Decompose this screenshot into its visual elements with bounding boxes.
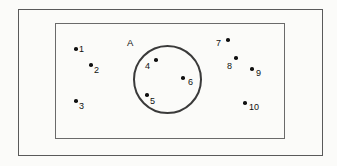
point-label-5: 5 xyxy=(150,97,155,106)
point-dot-3 xyxy=(74,99,78,103)
point-dot-7 xyxy=(226,38,230,42)
point-label-9: 9 xyxy=(256,69,261,78)
set-A-label: A xyxy=(127,38,133,48)
point-dot-10 xyxy=(243,101,247,105)
point-label-10: 10 xyxy=(249,103,259,112)
diagram-canvas: A 12345678910 xyxy=(0,0,337,166)
point-label-2: 2 xyxy=(94,66,99,75)
point-dot-9 xyxy=(250,67,254,71)
point-dot-5 xyxy=(145,93,149,97)
point-dot-1 xyxy=(74,47,78,51)
point-dot-8 xyxy=(234,56,238,60)
point-dot-4 xyxy=(154,58,158,62)
point-label-6: 6 xyxy=(188,78,193,87)
point-label-7: 7 xyxy=(216,39,221,48)
point-dot-6 xyxy=(181,76,185,80)
point-label-4: 4 xyxy=(145,62,150,71)
point-label-1: 1 xyxy=(79,45,84,54)
point-label-8: 8 xyxy=(227,62,232,71)
point-label-3: 3 xyxy=(79,102,84,111)
point-dot-2 xyxy=(89,63,93,67)
